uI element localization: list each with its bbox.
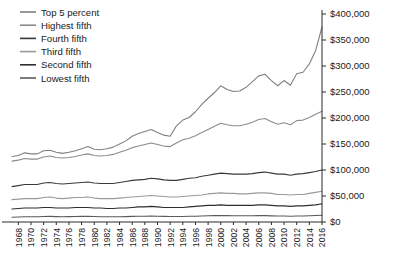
x-tick-label: 2010 [279,228,289,247]
y-tick-label: $300,000 [330,60,370,71]
y-tick-label: $100,000 [330,164,370,175]
x-tick-label: 2012 [292,228,302,247]
x-tick-label: 1970 [26,228,36,247]
x-tick-label: 1968 [14,228,24,247]
legend-label-2: Fourth fifth [41,33,87,44]
y-tick-label: $350,000 [330,34,370,45]
x-tick-label: 1990 [153,228,163,247]
x-tick-label: 1992 [166,228,176,247]
y-axis: $0$50,000$100,000$150,000$200,000$250,00… [322,8,370,227]
y-tick-label: $200,000 [330,112,370,123]
series-line-5 [12,215,322,217]
y-tick-label: $250,000 [330,86,370,97]
series-line-4 [12,204,322,209]
x-tick-label: 1978 [77,228,87,247]
x-axis: 1968197019721974197619781980198219841986… [2,222,327,247]
chart-container: $0$50,000$100,000$150,000$200,000$250,00… [0,0,401,265]
y-tick-label: $400,000 [330,8,370,19]
x-tick-label: 1976 [64,228,74,247]
legend: Top 5 percentHighest fifthFourth fifthTh… [20,7,99,84]
series-line-2 [12,170,322,187]
legend-label-5: Lowest fifth [41,73,90,84]
x-tick-label: 1982 [102,228,112,247]
x-tick-label: 1994 [178,228,188,247]
x-tick-label: 2008 [267,228,277,247]
x-tick-label: 1986 [128,228,138,247]
y-tick-label: $0 [330,216,341,227]
y-tick-label: $150,000 [330,138,370,149]
x-tick-label: 1972 [39,228,49,247]
series-line-3 [12,191,322,199]
x-tick-label: 2014 [305,228,315,247]
legend-label-4: Second fifth [41,59,92,70]
x-tick-label: 2016 [317,228,327,247]
y-tick-label: $50,000 [330,190,364,201]
x-tick-label: 2006 [254,228,264,247]
legend-label-0: Top 5 percent [41,7,99,18]
x-tick-label: 2002 [229,228,239,247]
x-tick-label: 1988 [140,228,150,247]
x-tick-label: 2004 [241,228,251,247]
legend-label-3: Third fifth [41,46,81,57]
x-tick-label: 2000 [216,228,226,247]
x-tick-label: 1980 [90,228,100,247]
legend-label-1: Highest fifth [41,20,92,31]
x-tick-label: 1984 [115,228,125,247]
x-tick-label: 1998 [204,228,214,247]
x-tick-label: 1974 [52,228,62,247]
x-tick-label: 1996 [191,228,201,247]
income-quintiles-line-chart: $0$50,000$100,000$150,000$200,000$250,00… [0,0,401,265]
